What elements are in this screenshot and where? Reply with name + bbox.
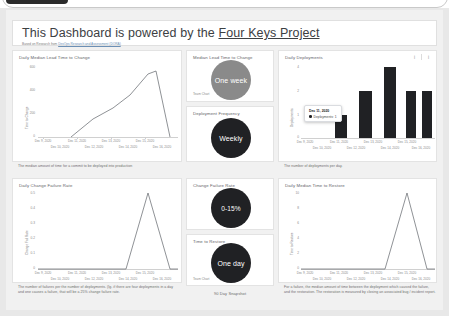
y-tick-deployments-2: 2 xyxy=(284,89,299,93)
y-tick-lead-time-0: 0 xyxy=(19,134,35,138)
scorecard-footer-time-to-restore[interactable]: Team Chart xyxy=(193,277,209,281)
line-series-failure-rate xyxy=(38,191,178,269)
y-tick-failure-2: 0.2 xyxy=(19,236,35,240)
y-tick-lead-time-3: 600 xyxy=(19,65,35,69)
x-tick-restore-top-2: Dec 13, 2020 xyxy=(357,271,389,275)
caption-lead-time: The median amount of time for a commit t… xyxy=(18,164,178,169)
x-tick-deployments-bot-2: Dec 14, 2020 xyxy=(374,146,406,150)
x-tick-restore-bot-0: Dec 10, 2020 xyxy=(306,277,338,281)
bar-deployments-4[interactable] xyxy=(422,91,432,138)
y-tick-failure-5: 0.5 xyxy=(19,191,35,195)
y-tick-failure-0: 0 xyxy=(19,266,35,270)
page-subtitle-prefix: Based on Research from xyxy=(22,42,58,46)
x-tick-restore-bot-1: Dec 12, 2020 xyxy=(340,277,372,281)
y-tick-failure-4: 0.4 xyxy=(19,206,35,210)
plot-lead-time: Time to Change 600 400 200 0 Dec 9, 2020… xyxy=(13,51,183,163)
dashboard-header-banner: This Dashboard is powered by the Four Ke… xyxy=(12,20,437,46)
x-tick-lead-time-bot-3: Dec 16, 2020 xyxy=(146,145,178,149)
x-tick-restore-bot-2: Dec 14, 2020 xyxy=(374,277,406,281)
caption-time-to-restore: For a failure, the median amount of time… xyxy=(284,285,436,295)
page-title-prefix: This Dashboard is powered by the xyxy=(22,26,218,40)
x-tick-deployments-top-3: Dec 15, 2020 xyxy=(391,140,423,144)
card-title-median-lead-time: Median Lead Time to Change xyxy=(193,55,253,60)
tooltip-row: Deployments: 1 xyxy=(309,115,337,119)
card-title-deployment-frequency: Deployment Frequency xyxy=(193,111,240,116)
x-tick-failure-bot-1: Dec 12, 2020 xyxy=(78,277,110,281)
tooltip-date: Dec 11, 2020 xyxy=(309,109,337,113)
x-tick-lead-time-bot-0: Dec 10, 2020 xyxy=(44,145,76,149)
x-axis-lead-time xyxy=(38,137,178,138)
scorecard-value-change-failure-rate: 0-15% xyxy=(211,188,251,228)
y-tick-restore-5: 10 xyxy=(284,191,299,195)
y-tick-deployments-3: 4 xyxy=(284,65,299,69)
x-tick-restore-top-1: Dec 11, 2020 xyxy=(323,271,355,275)
plot-time-to-restore: Time to Restore 10 8 6 4 2 0 Dec 9, 2020… xyxy=(279,179,438,284)
bar-deployments-2[interactable] xyxy=(384,67,396,138)
x-tick-failure-bot-2: Dec 14, 2020 xyxy=(112,277,144,281)
chart-tooltip-deployments: Dec 11, 2020 Deployments: 1 xyxy=(304,105,342,122)
page-subtitle: Based on Research from DevOps Research a… xyxy=(22,42,427,46)
x-tick-restore-bot-3: Dec 16, 2020 xyxy=(405,277,437,281)
x-tick-deployments-bot-0: Dec 10, 2020 xyxy=(306,146,338,150)
y-tick-lead-time-1: 200 xyxy=(19,111,35,115)
x-tick-lead-time-bot-2: Dec 14, 2020 xyxy=(112,145,144,149)
x-tick-deployments-top-0: Dec 9, 2020 xyxy=(289,140,321,144)
x-tick-failure-bot-3: Dec 16, 2020 xyxy=(146,277,178,281)
x-tick-failure-top-0: Dec 9, 2020 xyxy=(27,271,59,275)
x-tick-restore-top-0: Dec 9, 2020 xyxy=(289,271,321,275)
x-tick-deployments-bot-3: Dec 16, 2020 xyxy=(405,146,437,150)
bar-deployments-3[interactable] xyxy=(406,91,416,138)
x-tick-lead-time-top-3: Dec 15, 2020 xyxy=(129,139,161,143)
y-tick-deployments-1: 1 xyxy=(284,113,299,117)
bar-deployments-1[interactable] xyxy=(359,91,372,138)
scorecard-value-deployment-frequency: Weekly xyxy=(211,118,251,158)
y-tick-restore-0: 0 xyxy=(284,266,299,270)
plot-failure-rate: Change Fail Rate 0.5 0.4 0.3 0.2 0.1 0 D… xyxy=(13,179,183,284)
y-tick-lead-time-2: 400 xyxy=(19,88,35,92)
y-tick-restore-4: 8 xyxy=(284,206,299,210)
snapshot-label: 90 Day Snapshot xyxy=(186,291,274,296)
x-tick-restore-top-3: Dec 15, 2020 xyxy=(391,271,423,275)
y-tick-failure-1: 0.1 xyxy=(19,251,35,255)
y-axis-label-lead-time: Time to Change xyxy=(25,106,29,129)
x-tick-failure-top-3: Dec 15, 2020 xyxy=(129,271,161,275)
y-tick-restore-2: 4 xyxy=(284,236,299,240)
card-lead-time-chart: Daily Median Lead Time to Change Time to… xyxy=(12,50,182,162)
y-axis-label-deployments: Deployments xyxy=(290,108,294,127)
y-tick-restore-3: 6 xyxy=(284,221,299,225)
x-tick-deployments-top-1: Dec 11, 2020 xyxy=(323,140,355,144)
page-title: This Dashboard is powered by the Four Ke… xyxy=(22,26,427,40)
x-tick-failure-top-2: Dec 13, 2020 xyxy=(95,271,127,275)
scorecard-value-time-to-restore: One day xyxy=(211,243,251,283)
card-failure-rate-chart: Daily Change Failure Rate Change Fail Ra… xyxy=(12,178,182,283)
scorecard-value-lead-time: One week xyxy=(211,60,251,100)
tooltip-value-text: Deployments: 1 xyxy=(314,115,337,119)
x-tick-lead-time-top-1: Dec 11, 2020 xyxy=(61,139,93,143)
line-series-time-to-restore xyxy=(301,191,435,269)
plot-deployments: Deployments 4 2 1 0 Dec 11, 2020 Deploym… xyxy=(279,51,438,163)
card-scorecard-deployment-frequency: Deployment Frequency Weekly xyxy=(186,106,274,162)
legend-dot-icon xyxy=(309,115,312,118)
browser-chrome-strip xyxy=(0,0,449,8)
x-tick-failure-bot-0: Dec 10, 2020 xyxy=(44,277,76,281)
scorecard-footer-lead-time[interactable]: Team Chart xyxy=(193,92,209,96)
x-axis-deployments xyxy=(301,138,435,139)
card-title-time-to-restore: Time to Restore xyxy=(193,239,225,244)
browser-tab-badge[interactable] xyxy=(6,0,68,4)
x-tick-lead-time-top-2: Dec 13, 2020 xyxy=(95,139,127,143)
y-tick-failure-3: 0.3 xyxy=(19,221,35,225)
y-tick-restore-1: 2 xyxy=(284,251,299,255)
omnibox[interactable] xyxy=(2,0,448,8)
card-time-to-restore-chart: Daily Median Time to Restore Time to Res… xyxy=(278,178,437,283)
x-tick-lead-time-bot-1: Dec 12, 2020 xyxy=(78,145,110,149)
dora-research-link[interactable]: DevOps Research and Assessment (DORA) xyxy=(58,42,121,46)
caption-failure-rate: The number of failures per the number of… xyxy=(18,285,180,295)
card-deployments-chart: Daily Deployments i i Deployments 4 2 1 … xyxy=(278,50,437,162)
x-tick-deployments-bot-1: Dec 12, 2020 xyxy=(340,146,372,150)
four-keys-project-link[interactable]: Four Keys Project xyxy=(218,26,319,40)
card-scorecard-change-failure-rate: Change Failure Rate 0-15% xyxy=(186,178,274,230)
caption-deployments: The number of deployments per day. xyxy=(284,164,434,169)
y-tick-deployments-0: 0 xyxy=(284,135,299,139)
x-tick-deployments-top-2: Dec 13, 2020 xyxy=(357,140,389,144)
dashboard-page: This Dashboard is powered by the Four Ke… xyxy=(6,10,443,310)
